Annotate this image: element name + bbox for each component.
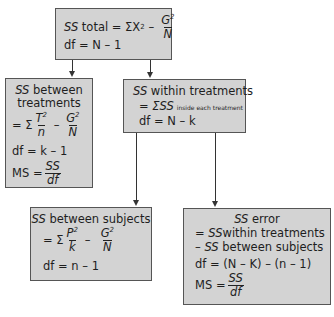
sigma: = Σ	[43, 234, 64, 247]
node-ss-error: SS error = SSwithin treatments – SS betw…	[183, 208, 331, 305]
ss-label: SS	[32, 212, 46, 226]
frac-den: N	[164, 27, 173, 40]
ss-error-title: SS error	[184, 213, 330, 226]
arrowhead-icon	[212, 201, 218, 207]
fraction-g2-over-n: G2 N	[65, 113, 80, 138]
minus-sign: –	[85, 234, 91, 247]
ss-name: within treatments	[151, 84, 253, 98]
ss-total-formula: SS total = ΣX2 – G2 N	[64, 15, 178, 40]
exponent: 2	[170, 13, 174, 21]
frac-den: n	[38, 125, 45, 138]
formula-subscript: inside each treatment	[177, 104, 243, 111]
exponent: 2	[75, 111, 79, 119]
ms-error: MS = SS df	[195, 273, 246, 298]
frac-den: k	[69, 240, 76, 253]
ss-label: SS	[234, 212, 248, 226]
ss-between-subjects-df: df = n – 1	[43, 260, 99, 273]
formula: = ΣSS	[139, 99, 174, 113]
fraction-g2-over-n: G2 N	[100, 228, 115, 253]
ss-between-subjects-title: SS between subjects	[31, 213, 151, 226]
formula-prefix: = ΣX	[112, 21, 140, 34]
arrowhead-icon	[147, 72, 153, 78]
line-text: within treatments	[223, 226, 325, 240]
fraction-p2-over-k: P2 k	[66, 228, 79, 253]
ss-error-df: df = (N – K) – (n – 1)	[195, 258, 311, 271]
frac-num: SS	[228, 273, 244, 286]
ss-total-df: df = N – 1	[64, 39, 121, 52]
frac-den: N	[103, 240, 112, 253]
minus-sign: –	[54, 119, 60, 132]
ss-within-formula: = ΣSSinside each treatment	[139, 100, 243, 113]
node-ss-between-subjects: SS between subjects = Σ P2 k – G2 N df =…	[30, 207, 152, 281]
exponent: 2	[110, 226, 114, 234]
ms-label: MS =	[195, 279, 226, 292]
ss-between-treatments-formula: = Σ T2 n – G2 N	[12, 113, 83, 138]
fraction-ss-over-df: SS df	[228, 273, 244, 298]
arrow-within-to-between-subjects	[136, 133, 137, 201]
frac-num: T	[36, 111, 43, 125]
ss-between-treatments-title: SS between treatments	[6, 84, 92, 110]
frac-num: G	[161, 13, 170, 27]
arrowhead-icon	[133, 200, 139, 206]
ss-between-treatments-df: df = k – 1	[12, 145, 67, 158]
ss-name: error	[252, 212, 280, 226]
line-text: between subjects	[222, 240, 323, 254]
arrow-within-to-error	[215, 133, 216, 202]
equals-sign: =	[195, 226, 205, 240]
ss-label: SS	[133, 84, 147, 98]
fraction-g2-over-n: G2 N	[160, 15, 175, 40]
frac-den: N	[69, 125, 78, 138]
frac-den: df	[47, 174, 58, 186]
ss-name: between	[33, 83, 83, 97]
ss-label: SS	[204, 240, 218, 254]
ss-error-line1: = SSwithin treatments	[195, 227, 325, 240]
arrowhead-icon	[69, 71, 75, 77]
ss-label: SS	[15, 83, 29, 97]
ms-between-treatments: MS = SS df	[12, 161, 63, 186]
frac-den: df	[230, 286, 241, 298]
minus-sign: –	[195, 240, 201, 254]
minus-sign: –	[148, 21, 154, 34]
exponent: 2	[74, 226, 78, 234]
ss-label: SS	[208, 226, 222, 240]
ms-label: MS =	[12, 167, 43, 180]
ss-within-df: df = N – k	[139, 115, 196, 128]
node-ss-within-treatments: SS within treatments = ΣSSinside each tr…	[123, 79, 246, 133]
ss-within-title: SS within treatments	[133, 85, 253, 98]
ss-error-line2: – SS between subjects	[195, 241, 323, 254]
exponent: 2	[43, 111, 47, 119]
fraction-ss-over-df: SS df	[45, 161, 61, 186]
ss-name-line2: treatments	[17, 96, 81, 110]
ss-name: total	[82, 21, 108, 34]
ss-label: SS	[64, 21, 78, 34]
node-ss-total: SS total = ΣX2 – G2 N df = N – 1	[55, 8, 172, 60]
ss-between-subjects-formula: = Σ P2 k – G2 N	[43, 228, 117, 253]
frac-num: SS	[45, 161, 61, 174]
frac-num: G	[101, 226, 110, 240]
frac-num: P	[67, 226, 74, 240]
sigma: = Σ	[12, 119, 33, 132]
fraction-t2-over-n: T2 n	[35, 113, 49, 138]
node-ss-between-treatments: SS between treatments = Σ T2 n – G2 N df…	[5, 78, 93, 188]
frac-num: G	[66, 111, 75, 125]
ss-name: between subjects	[49, 212, 150, 226]
